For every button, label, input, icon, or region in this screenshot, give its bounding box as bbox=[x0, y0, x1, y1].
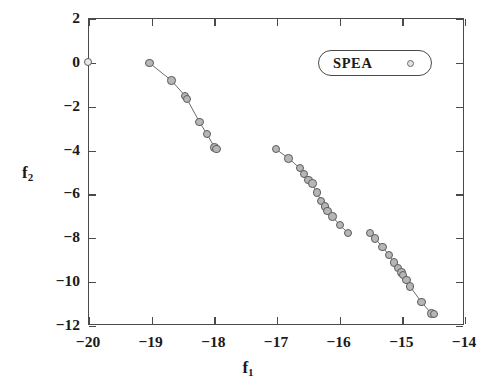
legend-marker-icon bbox=[407, 60, 414, 67]
data-point bbox=[284, 154, 292, 162]
data-point bbox=[371, 234, 379, 242]
data-point bbox=[195, 118, 203, 126]
x-axis-label: f1 bbox=[0, 358, 496, 378]
data-point bbox=[167, 76, 175, 84]
data-point bbox=[145, 59, 153, 67]
data-point bbox=[378, 243, 386, 251]
data-point bbox=[212, 145, 220, 153]
data-point bbox=[313, 188, 321, 196]
legend-box: SPEA bbox=[318, 50, 432, 76]
y-axis-label-subscript: 2 bbox=[28, 171, 34, 183]
data-point bbox=[406, 282, 414, 290]
legend-label-spea: SPEA bbox=[333, 55, 372, 72]
x-axis-label-subscript: 1 bbox=[248, 366, 254, 378]
data-point bbox=[308, 179, 316, 187]
data-point bbox=[328, 212, 336, 220]
data-point bbox=[417, 298, 425, 306]
y-axis-label: f2 bbox=[22, 163, 33, 183]
scatter-plot-figure: −20−19−18−17−16−15−1420−2−4−6−8−10−12 f1… bbox=[0, 0, 496, 392]
